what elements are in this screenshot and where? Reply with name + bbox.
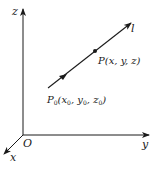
point-p0-name: P [47, 94, 54, 105]
point-p-coords: (x, y, z) [105, 55, 141, 66]
point-p [93, 49, 97, 53]
z-axis-label: z [12, 6, 18, 17]
point-p0-label: P0(x0, y0, z0) [47, 95, 106, 106]
x-axis-label: x [10, 152, 16, 163]
y-axis-label: y [142, 139, 148, 150]
p0-close-paren: ) [102, 94, 106, 105]
origin-label: O [23, 138, 32, 149]
point-p-name: P [98, 55, 105, 66]
point-p-label: P(x, y, z) [98, 56, 140, 66]
line-label: l [131, 23, 135, 34]
